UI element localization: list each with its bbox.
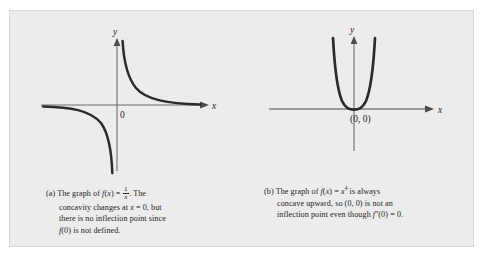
axis-label-x-b: x [437, 105, 443, 115]
graph-panel-a: x y 0 (a) The graph of f(x) = 1x. The co… [10, 11, 242, 248]
caption-b-line-3: inflection point even though f″(0) = 0. [264, 209, 459, 221]
curve-a-positive-branch [123, 41, 200, 105]
origin-label-a: 0 [120, 110, 125, 120]
origin-label-b: (0, 0) [350, 114, 371, 125]
axis-label-x-a: x [211, 101, 217, 111]
caption-b-line-1: (b) The graph of f(x) = x4 is always [264, 186, 459, 198]
caption-b-line-2: concave upward, so (0, 0) is not an [264, 198, 459, 210]
caption-a-line-1: (a) The graph of f(x) = 1x. The [46, 186, 226, 202]
y-axis-b [351, 36, 358, 151]
caption-b: (b) The graph of f(x) = x4 is always con… [264, 186, 459, 221]
graph-panel-b: x y (0, 0) (b) The graph of f(x) = x4 is… [242, 11, 475, 248]
caption-a-line-4: f(0) is not defined. [46, 225, 226, 237]
caption-a-line-2: concavity changes at x = 0, but [46, 202, 226, 214]
axis-label-y-b: y [349, 25, 355, 35]
figure-panel: x y 0 (a) The graph of f(x) = 1x. The co… [9, 10, 474, 247]
graph-a-plot: x y 0 [10, 11, 242, 191]
caption-a: (a) The graph of f(x) = 1x. The concavit… [46, 186, 226, 236]
graph-b-plot: x y (0, 0) [242, 11, 475, 191]
curve-a-negative-branch [43, 106, 112, 173]
axis-label-y-a: y [112, 27, 118, 37]
caption-a-line-3: there is no inflection point since [46, 213, 226, 225]
